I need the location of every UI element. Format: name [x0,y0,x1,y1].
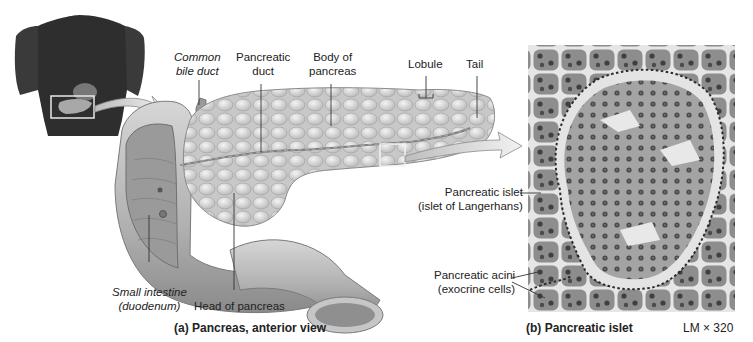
label-pancreatic-acini: Pancreatic acini (exocrine cells) [434,268,515,296]
torso-inset [15,15,145,136]
label-line: Pancreatic [236,50,290,64]
label-lobule: Lobule [408,57,443,71]
label-line: Pancreatic acini [434,268,515,282]
label-line: bile duct [174,64,221,78]
label-line: (duodenum) [112,299,187,313]
caption-panel-b: (b) Pancreatic islet [526,321,633,335]
label-line: Common [174,50,221,64]
label-line: Pancreatic islet [418,185,523,199]
caption-panel-a: (a) Pancreas, anterior view [174,321,326,335]
label-line: Body of [309,50,356,64]
micrograph [528,45,735,312]
magnification-label: LM × 320 [683,321,733,335]
label-common-bile-duct: Common bile duct [174,50,221,78]
label-line: (exocrine cells) [434,282,515,296]
label-body-of-pancreas: Body of pancreas [309,50,356,78]
label-head-of-pancreas: Head of pancreas [194,299,285,313]
label-pancreatic-islet: Pancreatic islet (islet of Langerhans) [418,185,523,213]
label-line: pancreas [309,64,356,78]
label-small-intestine: Small intestine (duodenum) [112,285,187,313]
label-line: duct [236,64,290,78]
label-tail: Tail [466,57,483,71]
label-pancreatic-duct: Pancreatic duct [236,50,290,78]
label-line: Small intestine [112,285,187,299]
label-line: (islet of Langerhans) [418,199,523,213]
